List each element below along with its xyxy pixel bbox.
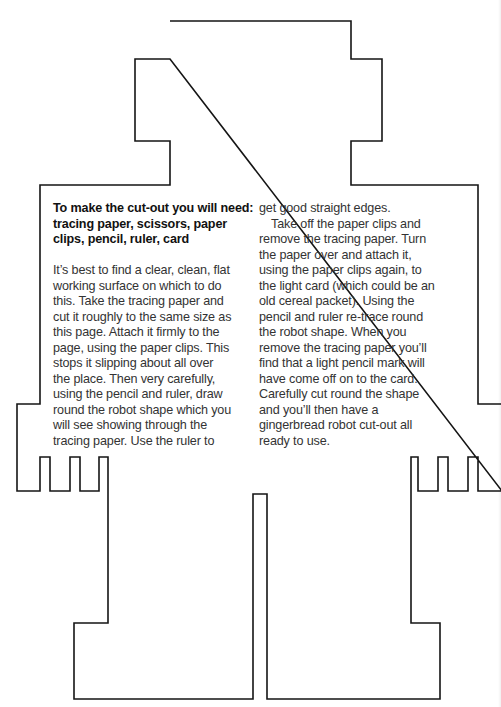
text-line: using the pencil and ruler, draw xyxy=(53,387,253,403)
text-line: remove the tracing paper you’ll xyxy=(259,341,459,357)
heading-line: tracing paper, scissors, paper xyxy=(53,217,253,233)
instructions-paragraph-1: It’s best to find a clear, clean, flat w… xyxy=(53,263,253,449)
text-line: the paper over and attach it, xyxy=(259,248,459,264)
text-line: working surface on which to do xyxy=(53,279,253,295)
text-line: and you’ll then have a xyxy=(259,403,459,419)
instructions-paragraph-continued: get good straight edges. Take off the pa… xyxy=(259,201,459,449)
text-line: round the robot shape which you xyxy=(53,403,253,419)
text-line: old cereal packet). Using the xyxy=(259,294,459,310)
instructions-right-column: get good straight edges. Take off the pa… xyxy=(259,201,459,449)
text-line: the place. Then very carefully, xyxy=(53,372,253,388)
heading-line: clips, pencil, ruler, card xyxy=(53,232,253,248)
text-line: It’s best to find a clear, clean, flat xyxy=(53,263,253,279)
text-line: tracing paper. Use the ruler to xyxy=(53,434,253,450)
text-line: Carefully cut round the shape xyxy=(259,387,459,403)
text-line: remove the tracing paper. Turn xyxy=(259,232,459,248)
text-line: will see showing through the xyxy=(53,418,253,434)
text-line: page, using the paper clips. This xyxy=(53,341,253,357)
text-line: pencil and ruler re-trace round xyxy=(259,310,459,326)
text-line: the light card (which could be an xyxy=(259,279,459,295)
materials-heading: To make the cut-out you will need: traci… xyxy=(53,201,253,248)
heading-line: To make the cut-out you will need: xyxy=(53,201,253,217)
text-line: Take off the paper clips and xyxy=(259,217,459,233)
text-line: have come off on to the card. xyxy=(259,372,459,388)
text-line: find that a light pencil mark will xyxy=(259,356,459,372)
text-line: stops it slipping about all over xyxy=(53,356,253,372)
text-line: this. Take the tracing paper and xyxy=(53,294,253,310)
text-line: ready to use. xyxy=(259,434,459,450)
text-line: this page. Attach it firmly to the xyxy=(53,325,253,341)
text-line: cut it roughly to the same size as xyxy=(53,310,253,326)
text-line: the robot shape. When you xyxy=(259,325,459,341)
instructions-left-column: To make the cut-out you will need: traci… xyxy=(53,201,253,449)
text-line: gingerbread robot cut-out all xyxy=(259,418,459,434)
text-line: get good straight edges. xyxy=(259,201,459,217)
text-line: using the paper clips again, to xyxy=(259,263,459,279)
